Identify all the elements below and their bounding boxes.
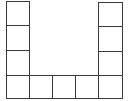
grid-cell (98, 2, 123, 27)
u-shaped-grid-diagram (0, 0, 128, 101)
grid-cell (6, 1, 30, 26)
grid-cell (6, 25, 30, 51)
grid-cell (98, 26, 123, 52)
grid-cell (98, 75, 123, 99)
grid-cell (6, 50, 30, 76)
grid-cell (75, 75, 99, 99)
grid-cell (6, 75, 30, 99)
grid-cell (98, 51, 123, 76)
grid-cell (29, 75, 53, 99)
grid-cell (52, 75, 76, 99)
